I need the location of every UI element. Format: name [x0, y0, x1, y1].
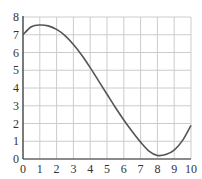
x-tick-label: 10 [185, 162, 197, 176]
y-tick-label: 1 [13, 134, 19, 148]
x-tick-label: 8 [154, 162, 160, 176]
y-tick-label: 0 [13, 152, 19, 166]
x-tick-label: 5 [104, 162, 110, 176]
x-tick-label: 0 [20, 162, 26, 176]
x-tick-label: 2 [54, 162, 60, 176]
x-tick-label: 6 [121, 162, 127, 176]
y-tick-label: 4 [13, 81, 19, 95]
y-tick-label: 7 [13, 28, 19, 42]
line-chart: 012345678910 012345678 [0, 0, 202, 179]
y-tick-label: 2 [13, 117, 19, 131]
y-axis-tick-labels: 012345678 [13, 10, 19, 166]
x-tick-label: 3 [70, 162, 76, 176]
y-tick-label: 8 [13, 10, 19, 24]
x-tick-label: 4 [87, 162, 93, 176]
x-tick-label: 1 [37, 162, 43, 176]
y-tick-label: 6 [13, 46, 19, 60]
y-tick-label: 3 [13, 99, 19, 113]
y-tick-label: 5 [13, 63, 19, 77]
x-tick-label: 9 [171, 162, 177, 176]
grid-lines [23, 17, 191, 159]
x-tick-label: 7 [138, 162, 144, 176]
x-axis-tick-labels: 012345678910 [20, 162, 197, 176]
